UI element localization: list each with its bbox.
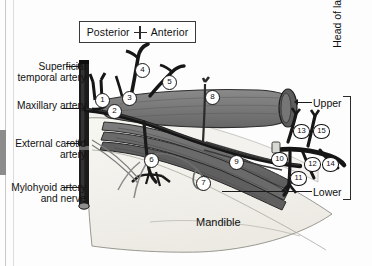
leader-mylohyoid <box>62 187 84 188</box>
bracket-lateral-pterygoid <box>343 96 351 200</box>
callout-marker-11: 11 <box>290 171 307 186</box>
arrow-eca-icon <box>78 140 82 146</box>
label-upper-head: Upper <box>313 97 342 109</box>
orientation-posterior-label: Posterior <box>87 26 130 38</box>
label-mylohyoid-artery-and-nerve: Mylohyoid artery and nerve <box>8 182 86 205</box>
orientation-box: Posterior Anterior <box>79 21 196 43</box>
leader-sta <box>66 66 78 67</box>
arrow-upper-icon <box>294 99 298 105</box>
callout-marker-6: 6 <box>144 153 159 168</box>
label-maxillary-artery: Maxillary artery <box>8 100 86 111</box>
callout-marker-13: 13 <box>293 124 310 139</box>
label-head-of-lateral-pterygoid-muscle: Head of lateral pterygoid muscle <box>331 0 345 60</box>
callout-marker-5: 5 <box>162 75 177 90</box>
callout-marker-15: 15 <box>313 124 330 139</box>
label-external-carotid-artery: External carotid artery <box>8 138 86 161</box>
label-lower-head: Lower <box>313 186 342 198</box>
label-mandible: Mandible <box>196 216 241 228</box>
leader-external-carotid-artery <box>66 143 78 144</box>
leader-upper-head <box>298 102 312 103</box>
label-superficial-temporal-artery: Superficial temporal artery <box>8 61 86 84</box>
cross-marker-icon <box>134 26 147 39</box>
callout-marker-12: 12 <box>304 157 321 172</box>
callout-marker-4: 4 <box>135 63 150 78</box>
callout-marker-2: 2 <box>107 104 122 119</box>
callout-marker-14: 14 <box>322 157 339 172</box>
callout-marker-8: 8 <box>205 90 220 105</box>
callout-marker-7: 7 <box>196 176 211 191</box>
callout-marker-3: 3 <box>122 91 137 106</box>
orientation-anterior-label: Anterior <box>151 26 189 38</box>
anatomical-figure: Posterior Anterior Superficial temporal … <box>0 0 372 266</box>
callout-marker-10: 10 <box>271 152 288 167</box>
leader-maxillary-artery <box>62 108 84 109</box>
callout-marker-9: 9 <box>229 155 244 170</box>
arrow-sta-icon <box>78 63 82 69</box>
leader-lower-head <box>222 191 312 192</box>
